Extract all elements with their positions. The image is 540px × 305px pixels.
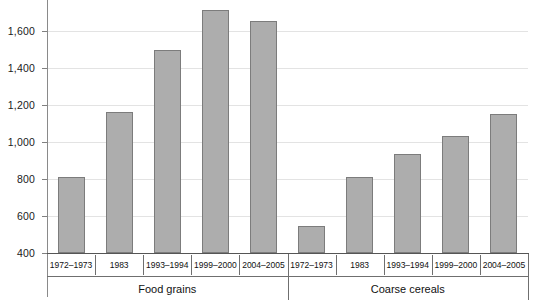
category-cell-separator <box>336 255 337 275</box>
y-axis-tick-label: 1,000 <box>0 137 35 148</box>
gridline <box>47 31 528 32</box>
gridline <box>47 105 528 106</box>
category-label: 1983 <box>95 254 143 276</box>
y-axis-tick-label: 400 <box>0 248 35 259</box>
bar <box>346 177 373 253</box>
category-label: 2004–2005 <box>480 254 528 276</box>
category-label: 1993–1994 <box>384 254 432 276</box>
gridline <box>47 68 528 69</box>
category-cell-separator <box>384 255 385 275</box>
y-axis-tick-label: 800 <box>0 174 35 185</box>
category-cell-separator <box>143 255 144 275</box>
group-label: Coarse cereals <box>288 281 529 297</box>
y-axis-tick-label: 1,200 <box>0 100 35 111</box>
category-cell-separator <box>239 255 240 275</box>
category-cell-separator <box>95 255 96 275</box>
bar <box>490 114 517 253</box>
bar <box>154 50 181 254</box>
category-label: 2004–2005 <box>239 254 287 276</box>
category-label: 1999–2000 <box>432 254 480 276</box>
category-label: 1972–1973 <box>47 254 95 276</box>
category-cell-separator <box>432 255 433 275</box>
bar <box>442 136 469 253</box>
group-label: Food grains <box>47 281 288 297</box>
category-label: 1993–1994 <box>143 254 191 276</box>
category-label: 1972–1973 <box>288 254 336 276</box>
category-label: 1983 <box>336 254 384 276</box>
y-axis-tick-label: 1,600 <box>0 26 35 37</box>
y-axis-tick-label: 600 <box>0 211 35 222</box>
category-label: 1999–2000 <box>191 254 239 276</box>
category-cell-separator <box>191 255 192 275</box>
category-cell-separator <box>480 255 481 275</box>
bar <box>202 10 229 253</box>
bar <box>298 226 325 253</box>
y-axis-tick-label: 1,400 <box>0 63 35 74</box>
bar <box>394 154 421 253</box>
group-separator <box>288 254 289 300</box>
bar-chart: 1972–197319831993–19941999–20002004–2005… <box>0 0 540 305</box>
bar <box>58 177 85 253</box>
band-right-edge <box>528 254 529 300</box>
bar <box>250 21 277 253</box>
bar <box>106 112 133 253</box>
plot-area <box>47 8 528 253</box>
